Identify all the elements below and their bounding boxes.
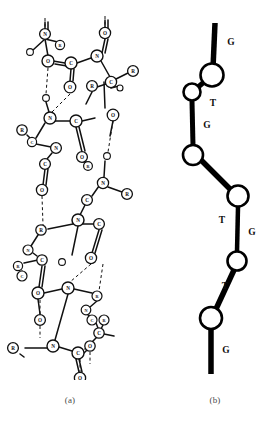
svg-text:C: C	[69, 60, 73, 66]
sequence-label: T	[210, 98, 217, 108]
atom	[117, 85, 123, 91]
atom: C	[65, 57, 77, 69]
svg-text:O: O	[40, 187, 44, 193]
atom: C	[105, 76, 116, 87]
sequence-label: G	[222, 345, 230, 355]
svg-text:N: N	[76, 217, 80, 223]
svg-text:C: C	[40, 257, 44, 263]
atom: O	[85, 341, 95, 351]
atom: N	[47, 340, 59, 352]
atom: C	[94, 328, 104, 338]
atom: R	[17, 125, 27, 135]
svg-text:C: C	[43, 161, 47, 167]
atom: N	[81, 305, 91, 315]
backbone-node	[228, 252, 247, 271]
atom: O	[77, 152, 88, 163]
svg-text:C: C	[97, 330, 101, 336]
svg-text:R: R	[39, 227, 43, 233]
atom: N	[40, 29, 51, 40]
atom: R	[36, 225, 46, 235]
atom: N	[62, 282, 74, 294]
svg-text:O: O	[36, 290, 40, 296]
caption-panel-b: (b)	[195, 395, 235, 405]
atom: R	[84, 162, 93, 171]
caption-panel-a: (a)	[50, 395, 90, 405]
atom: C	[17, 271, 27, 281]
svg-text:C: C	[74, 118, 78, 124]
svg-text:O: O	[111, 112, 115, 118]
bond-G-3	[237, 207, 238, 252]
svg-text:N: N	[54, 145, 58, 151]
atom: N	[72, 214, 84, 226]
molecular-structure-svg: N R O C N O O R C R N C O R C N C O	[0, 8, 168, 380]
backbone-node	[201, 64, 224, 87]
backbone-node	[183, 145, 203, 165]
atom: O	[35, 315, 46, 326]
svg-text:R: R	[125, 191, 129, 197]
atom: C	[70, 115, 82, 127]
atom: C	[37, 255, 47, 265]
svg-text:C: C	[90, 318, 93, 323]
backbone-node	[228, 186, 249, 207]
atom: O	[107, 109, 119, 121]
atom: C	[94, 219, 105, 230]
sequence-label: T	[219, 215, 226, 225]
atom	[59, 259, 66, 266]
atom: R	[128, 66, 139, 77]
svg-text:N: N	[84, 308, 87, 313]
svg-text:O: O	[88, 343, 92, 349]
svg-text:N: N	[101, 180, 105, 186]
panel-b-backbone-schematic: G T G T G T G	[168, 8, 266, 380]
atom: N	[97, 177, 108, 188]
backbone-schematic-svg: G T G T G T G	[168, 8, 266, 380]
atom	[27, 49, 34, 56]
atom: R	[99, 315, 109, 325]
svg-text:O: O	[89, 255, 93, 261]
svg-text:C: C	[109, 79, 113, 85]
bond-G-2	[192, 101, 193, 146]
backbone-node	[200, 307, 222, 329]
svg-text:R: R	[131, 68, 135, 74]
atom: O	[64, 81, 76, 93]
bond-G-top	[213, 23, 215, 68]
atom: O	[85, 252, 96, 263]
atom: O	[36, 184, 47, 195]
atom: R	[92, 291, 102, 301]
atom	[104, 153, 111, 160]
sequence-label: G	[203, 120, 211, 130]
atom: R	[13, 261, 22, 270]
svg-text:C: C	[20, 274, 23, 279]
atom: C	[82, 195, 93, 206]
atom: R	[8, 343, 19, 354]
svg-text:R: R	[20, 127, 24, 133]
svg-text:N: N	[43, 31, 47, 37]
atom: C	[87, 315, 97, 325]
svg-text:C: C	[97, 221, 101, 227]
sequence-label: G	[227, 37, 235, 47]
atom: O	[42, 55, 54, 67]
sequence-label: T	[222, 281, 229, 291]
atom: N	[91, 50, 103, 62]
atom: N	[51, 143, 62, 154]
atom: N	[23, 245, 33, 255]
atom: C	[40, 159, 51, 170]
svg-text:R: R	[11, 345, 15, 351]
atom: C	[27, 137, 36, 146]
atom: R	[55, 40, 64, 49]
atom: N	[44, 112, 56, 124]
atom: C	[72, 347, 84, 359]
svg-text:C: C	[76, 350, 80, 356]
svg-text:N: N	[66, 285, 70, 291]
svg-text:N: N	[51, 343, 55, 349]
panel-a-molecular-structure: N R O C N O O R C R N C O R C N C O	[0, 8, 168, 380]
atom: R	[87, 81, 98, 92]
backbone-node	[184, 84, 201, 101]
atom: O	[74, 372, 85, 380]
svg-text:O: O	[68, 84, 72, 90]
svg-text:O: O	[38, 317, 42, 323]
svg-text:N: N	[95, 53, 99, 59]
svg-text:O: O	[103, 30, 107, 36]
svg-text:O: O	[78, 375, 82, 380]
atom: O	[99, 27, 110, 38]
figure-root: N R O C N O O R C R N C O R C N C O	[0, 0, 266, 433]
